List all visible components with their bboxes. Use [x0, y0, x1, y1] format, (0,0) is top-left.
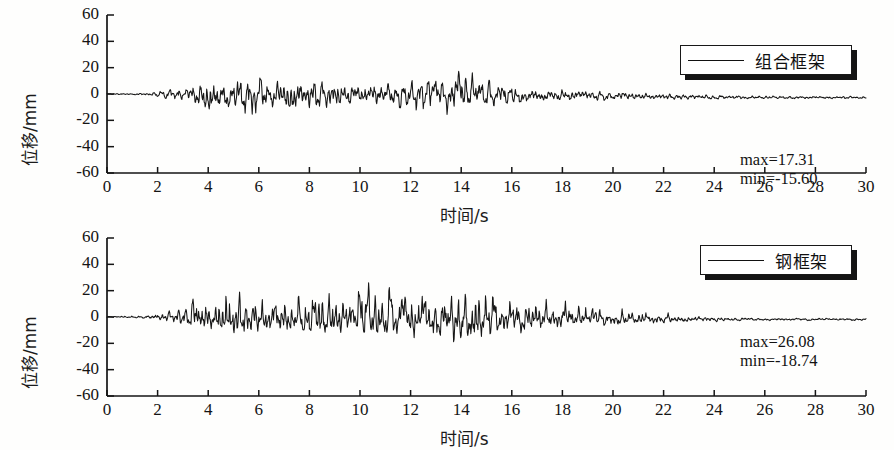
x-tick-label: 26: [748, 400, 782, 420]
y-tick-label: -20: [53, 109, 99, 129]
legend-bottom[interactable]: 钢框架: [700, 245, 852, 275]
stats-annotation-bottom: max=26.08 min=-18.74: [740, 332, 818, 370]
x-tick-label: 22: [647, 400, 681, 420]
x-tick-label: 2: [141, 400, 175, 420]
x-tick-label: 0: [90, 177, 124, 197]
x-tick-label: 2: [141, 177, 175, 197]
y-tick-label: 40: [53, 30, 99, 50]
x-tick-label: 4: [191, 177, 225, 197]
y-tick-label: -40: [53, 359, 99, 379]
max-value-top: max=17.31: [740, 150, 818, 169]
legend-line-swatch-bottom: [708, 260, 764, 261]
legend-top[interactable]: 组合框架: [680, 45, 852, 75]
y-tick-label: 0: [53, 306, 99, 326]
x-tick-label: 16: [495, 177, 529, 197]
x-tick-label: 30: [849, 177, 883, 197]
min-value-bottom: min=-18.74: [740, 351, 818, 370]
x-tick-label: 20: [596, 400, 630, 420]
x-tick-label: 20: [596, 177, 630, 197]
x-tick-label: 8: [292, 177, 326, 197]
x-axis-title-bottom: 时间/s: [440, 425, 489, 450]
y-tick-label: 20: [53, 280, 99, 300]
legend-label-top: 组合框架: [755, 48, 825, 73]
x-tick-label: 28: [798, 177, 832, 197]
x-tick-label: 0: [90, 400, 124, 420]
x-tick-label: 8: [292, 400, 326, 420]
chart-panel-bottom: 位移/mm 时间/s 钢框架 max=26.08 min=-18.74 6040…: [0, 223, 894, 446]
x-tick-label: 24: [697, 177, 731, 197]
x-tick-label: 14: [444, 177, 478, 197]
x-tick-label: 6: [242, 177, 276, 197]
y-tick-label: 60: [53, 4, 99, 24]
x-tick-label: 10: [343, 177, 377, 197]
legend-label-bottom: 钢框架: [775, 248, 828, 273]
x-tick-label: 6: [242, 400, 276, 420]
y-axis-title-top: 位移/mm: [16, 93, 41, 166]
y-tick-label: 20: [53, 57, 99, 77]
x-tick-label: 30: [849, 400, 883, 420]
y-tick-label: -20: [53, 332, 99, 352]
x-tick-label: 26: [748, 177, 782, 197]
y-tick-label: 0: [53, 83, 99, 103]
x-tick-label: 18: [545, 177, 579, 197]
x-tick-label: 14: [444, 400, 478, 420]
y-tick-label: -40: [53, 136, 99, 156]
x-tick-label: 18: [545, 400, 579, 420]
x-tick-label: 10: [343, 400, 377, 420]
y-axis-title-bottom: 位移/mm: [16, 316, 41, 389]
max-value-bottom: max=26.08: [740, 332, 818, 351]
x-tick-label: 16: [495, 400, 529, 420]
y-tick-label: 60: [53, 227, 99, 247]
x-tick-label: 24: [697, 400, 731, 420]
chart-panel-top: 位移/mm 时间/s 组合框架 max=17.31 min=-15.60 604…: [0, 0, 894, 223]
x-tick-label: 4: [191, 400, 225, 420]
legend-line-swatch-top: [688, 60, 744, 61]
y-tick-label: 40: [53, 253, 99, 273]
x-tick-label: 12: [394, 400, 428, 420]
x-tick-label: 28: [798, 400, 832, 420]
x-tick-label: 22: [647, 177, 681, 197]
x-tick-label: 12: [394, 177, 428, 197]
